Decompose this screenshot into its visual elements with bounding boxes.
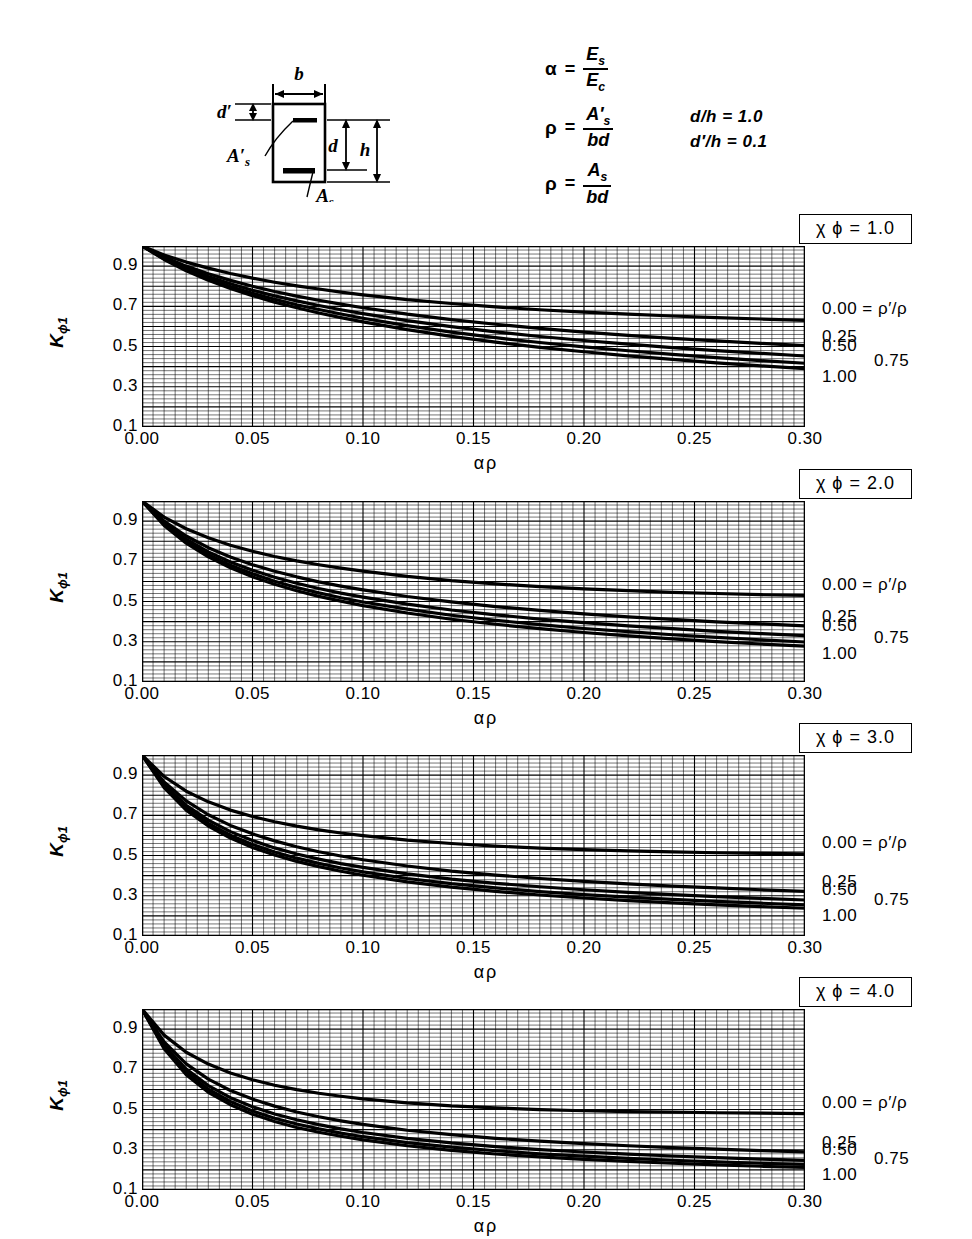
x-tick-0-15: 0.15 (456, 684, 491, 704)
y-tick-0-7: 0.7 (84, 804, 138, 824)
curve-label-0-00: 0.00 = ρ′/ρ (822, 299, 907, 319)
y-tick-0-5: 0.5 (84, 1099, 138, 1119)
ratio-dprime-over-h: d′/h = 0.1 (690, 130, 900, 155)
curve-labels-2: 0.00 = ρ′/ρ0.250.500.751.00 (812, 501, 972, 686)
x-tick-0-15: 0.15 (456, 938, 491, 958)
label-d-prime: d′ (217, 101, 232, 122)
panel-title-3: χ ϕ = 3.0 (799, 723, 912, 753)
rho-prime-denominator: bd (583, 130, 613, 150)
curve-label-0-00: 0.00 = ρ′/ρ (822, 575, 907, 595)
curve-labels-1: 0.00 = ρ′/ρ0.250.500.751.00 (812, 246, 972, 431)
rho-numerator: As (583, 161, 611, 186)
x-tick-0-20: 0.20 (566, 684, 601, 704)
alpha-numerator: Es (583, 45, 608, 70)
curve-label-0-00: 0.00 = ρ′/ρ (822, 1093, 907, 1113)
equals-sign: = (565, 59, 576, 80)
x-axis-label-4: αρ (0, 1216, 972, 1237)
y-tick-labels-2: 0.90.70.50.30.1 (78, 501, 138, 682)
y-tick-0-5: 0.5 (84, 336, 138, 356)
figure-header: b d′ A′s As d h α = Es Ec ρ = (0, 0, 972, 215)
chart-panel-3: χ ϕ = 3.0 Kϕ1 0.90.70.50.30.1 0.000.050.… (0, 724, 972, 974)
x-tick-0-25: 0.25 (677, 429, 712, 449)
x-tick-0-25: 0.25 (677, 938, 712, 958)
rho-prime-numerator: A′s (583, 105, 613, 130)
y-tick-labels-1: 0.90.70.50.30.1 (78, 246, 138, 427)
x-tick-0-10: 0.10 (345, 938, 380, 958)
panel-title-4: χ ϕ = 4.0 (799, 977, 912, 1007)
rho-fraction: As bd (583, 161, 611, 206)
x-tick-0-05: 0.05 (235, 429, 270, 449)
curve-label-0-50: 0.50 (822, 336, 857, 356)
x-tick-labels-3: 0.000.050.100.150.200.250.30 (142, 938, 805, 964)
concrete-section-diagram: b d′ A′s As d h (205, 52, 435, 202)
y-tick-0-9: 0.9 (84, 255, 138, 275)
label-as: As (315, 185, 334, 202)
x-tick-0-30: 0.30 (787, 938, 822, 958)
curve-label-0-75: 0.75 (874, 351, 909, 371)
ratio-block: d/h = 1.0 d′/h = 0.1 (690, 105, 900, 154)
curve-label-1-00: 1.00 (822, 644, 857, 664)
y-tick-0-3: 0.3 (84, 631, 138, 651)
plot-svg-1 (142, 246, 805, 427)
x-tick-labels-2: 0.000.050.100.150.200.250.30 (142, 684, 805, 710)
x-tick-0-05: 0.05 (235, 1192, 270, 1212)
y-tick-0-9: 0.9 (84, 1018, 138, 1038)
x-tick-0-20: 0.20 (566, 429, 601, 449)
y-tick-0-5: 0.5 (84, 845, 138, 865)
y-axis-label: Kϕ1 (46, 1075, 71, 1115)
x-tick-labels-4: 0.000.050.100.150.200.250.30 (142, 1192, 805, 1218)
curve-label-0-50: 0.50 (822, 880, 857, 900)
curve-label-1-00: 1.00 (822, 367, 857, 387)
x-tick-0-25: 0.25 (677, 684, 712, 704)
curve-labels-4: 0.00 = ρ′/ρ0.250.500.751.00 (812, 1009, 972, 1194)
y-axis-label: Kϕ1 (46, 821, 71, 861)
y-tick-0-5: 0.5 (84, 591, 138, 611)
x-tick-0-15: 0.15 (456, 429, 491, 449)
y-tick-0-7: 0.7 (84, 295, 138, 315)
chart-panel-4: χ ϕ = 4.0 Kϕ1 0.90.70.50.30.1 0.000.050.… (0, 978, 972, 1228)
equals-sign: = (565, 117, 576, 138)
curve-label-1-00: 1.00 (822, 1165, 857, 1185)
equation-rho: ρ = As bd (545, 161, 715, 206)
y-tick-0-7: 0.7 (84, 550, 138, 570)
x-tick-0-20: 0.20 (566, 1192, 601, 1212)
x-tick-0-00: 0.00 (124, 429, 159, 449)
y-tick-0-9: 0.9 (84, 764, 138, 784)
gridlines (142, 501, 805, 682)
curve-label-0-75: 0.75 (874, 628, 909, 648)
equals-sign: = (565, 173, 576, 194)
x-tick-labels-1: 0.000.050.100.150.200.250.30 (142, 429, 805, 455)
plot-area-2 (142, 501, 805, 682)
panel-title-2: χ ϕ = 2.0 (799, 469, 912, 499)
plot-area-3 (142, 755, 805, 936)
y-axis-label: Kϕ1 (46, 312, 71, 352)
x-tick-0-20: 0.20 (566, 938, 601, 958)
x-tick-0-15: 0.15 (456, 1192, 491, 1212)
x-tick-0-00: 0.00 (124, 1192, 159, 1212)
x-tick-0-05: 0.05 (235, 938, 270, 958)
x-tick-0-10: 0.10 (345, 684, 380, 704)
curve-label-1-00: 1.00 (822, 906, 857, 926)
y-tick-0-3: 0.3 (84, 885, 138, 905)
y-tick-0-3: 0.3 (84, 1139, 138, 1159)
curve-label-0-00: 0.00 = ρ′/ρ (822, 833, 907, 853)
curve-label-0-75: 0.75 (874, 890, 909, 910)
label-d: d (328, 135, 338, 156)
x-tick-0-30: 0.30 (787, 1192, 822, 1212)
y-axis-label: Kϕ1 (46, 567, 71, 607)
section-svg: b d′ A′s As d h (205, 52, 435, 202)
x-tick-0-00: 0.00 (124, 684, 159, 704)
alpha-symbol: α (545, 58, 557, 80)
plot-svg-4 (142, 1009, 805, 1190)
figure-page: b d′ A′s As d h α = Es Ec ρ = (0, 0, 972, 1239)
chart-panel-1: χ ϕ = 1.0 Kϕ1 0.90.70.50.30.1 0.000.050.… (0, 215, 972, 465)
curve-label-0-50: 0.50 (822, 1140, 857, 1160)
x-tick-0-10: 0.10 (345, 1192, 380, 1212)
ratio-d-over-h: d/h = 1.0 (690, 105, 900, 130)
plot-area-4 (142, 1009, 805, 1190)
y-tick-0-3: 0.3 (84, 376, 138, 396)
y-tick-labels-3: 0.90.70.50.30.1 (78, 755, 138, 936)
rho-denominator: bd (583, 187, 611, 207)
x-tick-0-25: 0.25 (677, 1192, 712, 1212)
chart-panel-2: χ ϕ = 2.0 Kϕ1 0.90.70.50.30.1 0.000.050.… (0, 470, 972, 720)
